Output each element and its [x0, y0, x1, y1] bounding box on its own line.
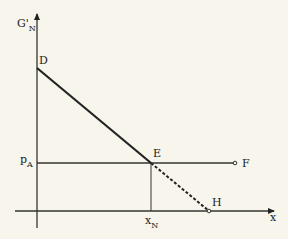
point-D-label: D — [39, 54, 48, 67]
economics-diagram: G'N x D E F H pA xN — [0, 0, 288, 239]
dashed-line-E-H — [151, 163, 209, 211]
y-axis-label: G'N — [17, 17, 36, 33]
x-axis-label: x — [270, 211, 277, 224]
x-tick-xN: xN — [145, 214, 158, 230]
point-H-label: H — [212, 196, 222, 209]
point-F-marker — [233, 161, 237, 165]
point-E-label: E — [153, 147, 161, 160]
line-D-E — [37, 68, 151, 163]
y-tick-pA: pA — [20, 153, 33, 169]
point-H-marker — [207, 209, 211, 213]
point-F-label: F — [242, 157, 250, 170]
